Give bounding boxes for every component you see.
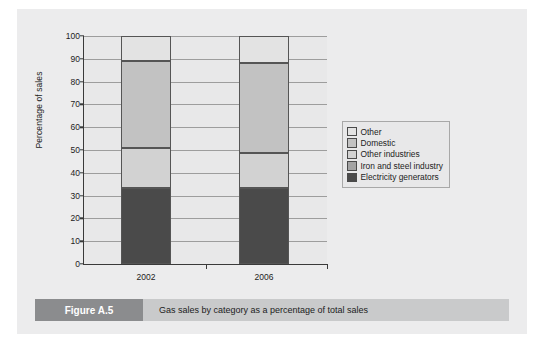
y-tick-mark (80, 35, 84, 36)
y-tick-label: 70 (71, 99, 80, 109)
figure-caption-text: Gas sales by category as a percentage of… (143, 299, 509, 321)
figure-number-tag: Figure A.5 (35, 299, 143, 321)
y-tick-label: 20 (71, 213, 80, 223)
y-tick-mark (80, 172, 84, 173)
y-tick-label: 80 (71, 77, 80, 87)
legend-item: Other (347, 126, 443, 137)
y-tick-mark (80, 195, 84, 196)
figure-container: Percentage of sales 01020304050607080901… (17, 9, 527, 334)
y-tick-mark (80, 126, 84, 127)
figure-caption: Figure A.5 Gas sales by category as a pe… (35, 299, 509, 321)
y-tick-mark (80, 58, 84, 59)
legend-label: Electricity generators (361, 172, 439, 182)
chart-plot-wrapper: Percentage of sales 01020304050607080901… (17, 9, 527, 291)
bar-segment (239, 36, 289, 63)
y-tick-mark (80, 104, 84, 105)
legend-label: Other industries (361, 149, 420, 159)
y-tick-mark (80, 218, 84, 219)
y-tick-mark (80, 263, 84, 264)
y-tick-mark (80, 81, 84, 82)
y-tick-label: 40 (71, 168, 80, 178)
x-tick-label: 2006 (255, 272, 274, 282)
legend-swatch (347, 138, 357, 148)
legend-swatch (347, 150, 357, 160)
x-tick-mark (327, 264, 328, 269)
bar-2006 (239, 36, 289, 264)
legend-item: Electricity generators (347, 172, 443, 183)
legend-swatch (347, 161, 357, 171)
x-tick-label: 2002 (137, 272, 156, 282)
legend-item: Iron and steel industry (347, 160, 443, 171)
y-axis-title: Percentage of sales (34, 55, 44, 165)
legend-label: Other (361, 127, 382, 137)
bar-segment (239, 188, 289, 264)
bar-segment (239, 153, 289, 187)
legend-swatch (347, 127, 357, 137)
y-tick-label: 60 (71, 122, 80, 132)
plot-area: 010203040506070809010020022006 (83, 36, 327, 265)
bar-segment (121, 188, 171, 264)
legend-label: Domestic (361, 138, 396, 148)
y-tick-label: 30 (71, 191, 80, 201)
y-tick-label: 0 (75, 259, 80, 269)
legend-label: Iron and steel industry (361, 161, 443, 171)
legend-item: Domestic (347, 137, 443, 148)
legend-swatch (347, 173, 357, 183)
chart-legend: OtherDomesticOther industriesIron and st… (342, 121, 450, 188)
y-tick-label: 10 (71, 236, 80, 246)
y-tick-mark (80, 149, 84, 150)
y-tick-label: 50 (71, 145, 80, 155)
y-tick-mark (80, 240, 84, 241)
x-tick-mark (206, 264, 207, 269)
bar-2002 (121, 36, 171, 264)
bar-segment (121, 36, 171, 61)
y-tick-label: 100 (66, 31, 80, 41)
bar-segment (239, 63, 289, 153)
y-tick-label: 90 (71, 54, 80, 64)
legend-item: Other industries (347, 149, 443, 160)
bar-segment (121, 148, 171, 188)
bar-segment (121, 61, 171, 148)
